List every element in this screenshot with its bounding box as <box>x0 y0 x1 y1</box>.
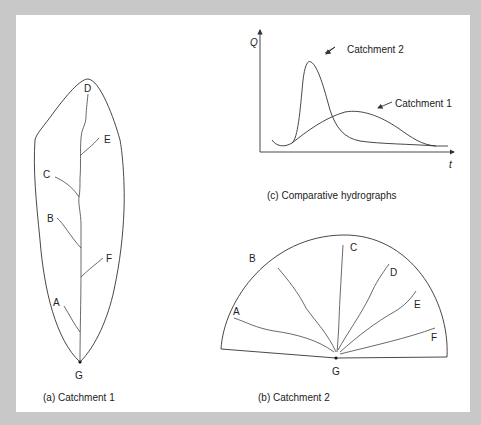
catchment2-stream-e <box>340 291 416 352</box>
catchment2-point-g: G <box>332 366 340 377</box>
catchment2-stream-d <box>338 264 389 350</box>
x-axis-label: t <box>449 159 453 170</box>
figure: Q t Catchment 2 Catchment 1 (c) Comparat… <box>0 0 481 425</box>
catchment1-caption: (a) Catchment 1 <box>43 392 115 403</box>
catchment2-point-a: A <box>233 306 240 317</box>
catchment1-point-b: B <box>47 213 54 224</box>
catchment2-stream-f <box>340 328 435 354</box>
catchment1-outlet-point <box>78 360 81 363</box>
catchment1-point-e: E <box>104 134 111 145</box>
catchment1-point-f: F <box>106 253 112 264</box>
catchment1-branch-e <box>81 138 99 155</box>
catchment1-branch-b <box>57 218 81 248</box>
catchment2-annotation: Catchment 2 <box>347 44 404 55</box>
hydrograph-chart: Q t Catchment 2 Catchment 1 (c) Comparat… <box>250 30 454 201</box>
catchment2-stream-a <box>234 318 334 352</box>
catchment1-branch-a <box>64 306 80 332</box>
catchment1-branch-f <box>81 258 103 277</box>
catchment1-branch-c <box>55 177 79 197</box>
catchment1-main-stream <box>79 94 88 362</box>
catchment1-diagram: D E C B F A G (a) Catchment 1 <box>34 79 124 403</box>
catchment2-point-f: F <box>431 332 437 343</box>
catchment2-outlet-point <box>334 356 337 359</box>
catchment2-diagram: A B C D E F G (b) Catchment 2 <box>221 235 447 403</box>
catchment2-stream-b <box>278 268 336 352</box>
catchment2-point-d: D <box>390 267 397 278</box>
catchment2-point-b: B <box>249 253 256 264</box>
catchment1-hydrograph-curve <box>292 111 448 146</box>
catchment1-annotation: Catchment 1 <box>395 98 452 109</box>
catchment1-arrow <box>378 102 392 108</box>
catchment2-point-e: E <box>414 299 421 310</box>
catchment1-point-a: A <box>53 297 60 308</box>
hydrograph-caption: (c) Comparative hydrographs <box>267 190 397 201</box>
catchment1-point-d: D <box>84 83 91 94</box>
y-axis-label: Q <box>250 37 258 48</box>
catchment1-point-c: C <box>43 169 50 180</box>
catchment2-stream-c <box>337 245 343 352</box>
catchment2-caption: (b) Catchment 2 <box>258 392 330 403</box>
catchment2-arrow <box>326 47 335 54</box>
catchment2-point-c: C <box>350 242 357 253</box>
catchment1-point-g: G <box>75 370 83 381</box>
